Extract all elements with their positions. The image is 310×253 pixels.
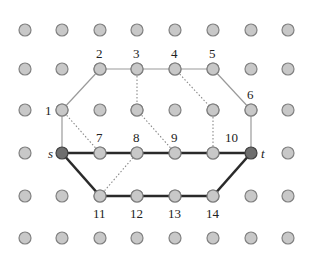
graph-diagram: st1234567891011121314 xyxy=(0,0,310,253)
node-label-4: 4 xyxy=(171,46,178,61)
grid-dot xyxy=(282,24,294,36)
grid-dot xyxy=(19,63,31,75)
grid-dot xyxy=(19,190,31,202)
grid-dot xyxy=(245,232,257,244)
node-label-10: 10 xyxy=(225,130,238,145)
node-label-t: t xyxy=(261,146,265,161)
node-7 xyxy=(94,147,106,159)
grid-dot xyxy=(282,232,294,244)
node-label-s: s xyxy=(48,146,53,161)
node-1 xyxy=(56,104,68,116)
edge-5-6 xyxy=(213,69,251,110)
grid-dot xyxy=(94,24,106,36)
node-4 xyxy=(169,63,181,75)
node-m2 xyxy=(207,104,219,116)
grid-dot xyxy=(169,104,181,116)
grid-dot xyxy=(282,190,294,202)
grid-dot xyxy=(169,24,181,36)
node-9 xyxy=(169,147,181,159)
node-label-5: 5 xyxy=(209,46,216,61)
edge-s-11 xyxy=(62,153,100,196)
grid-dot xyxy=(245,190,257,202)
grid-dot xyxy=(282,104,294,116)
grid-dot xyxy=(282,147,294,159)
grid-dot xyxy=(56,63,68,75)
node-label-8: 8 xyxy=(133,130,140,145)
grid-dot xyxy=(56,232,68,244)
node-12 xyxy=(131,190,143,202)
grid-dot xyxy=(245,24,257,36)
node-label-6: 6 xyxy=(247,87,254,102)
node-13 xyxy=(169,190,181,202)
node-3 xyxy=(131,63,143,75)
node-s xyxy=(56,147,68,159)
grid-dot xyxy=(19,104,31,116)
node-8 xyxy=(131,147,143,159)
graph-edges xyxy=(62,69,251,196)
edge-4-m2 xyxy=(175,69,213,110)
grid-dot xyxy=(19,147,31,159)
node-label-2: 2 xyxy=(96,46,103,61)
node-label-7: 7 xyxy=(96,130,103,145)
node-m1 xyxy=(131,104,143,116)
grid-dot xyxy=(131,232,143,244)
grid-dot xyxy=(56,190,68,202)
node-10 xyxy=(207,147,219,159)
node-t xyxy=(245,147,257,159)
edge-1-7 xyxy=(62,110,100,153)
grid-dot xyxy=(19,232,31,244)
edge-m1-9 xyxy=(137,110,175,153)
grid-dot xyxy=(282,63,294,75)
grid-dot xyxy=(207,24,219,36)
node-6 xyxy=(245,104,257,116)
node-label-13: 13 xyxy=(168,206,181,221)
node-label-11: 11 xyxy=(93,206,106,221)
edge-14-t xyxy=(213,153,251,196)
grid-dot xyxy=(56,24,68,36)
grid-dot xyxy=(94,232,106,244)
edge-1-2 xyxy=(62,69,100,110)
node-label-3: 3 xyxy=(133,46,140,61)
grid-dot xyxy=(94,104,106,116)
node-label-1: 1 xyxy=(45,103,52,118)
grid-dot xyxy=(245,63,257,75)
node-11 xyxy=(94,190,106,202)
node-2 xyxy=(94,63,106,75)
grid-dot xyxy=(19,24,31,36)
node-5 xyxy=(207,63,219,75)
edge-11-8 xyxy=(100,153,137,196)
node-label-12: 12 xyxy=(130,206,143,221)
grid-dot xyxy=(131,24,143,36)
grid-dot xyxy=(169,232,181,244)
node-14 xyxy=(207,190,219,202)
grid-dot xyxy=(207,232,219,244)
node-label-9: 9 xyxy=(171,130,178,145)
grid-dots xyxy=(19,24,294,244)
node-label-14: 14 xyxy=(206,206,220,221)
